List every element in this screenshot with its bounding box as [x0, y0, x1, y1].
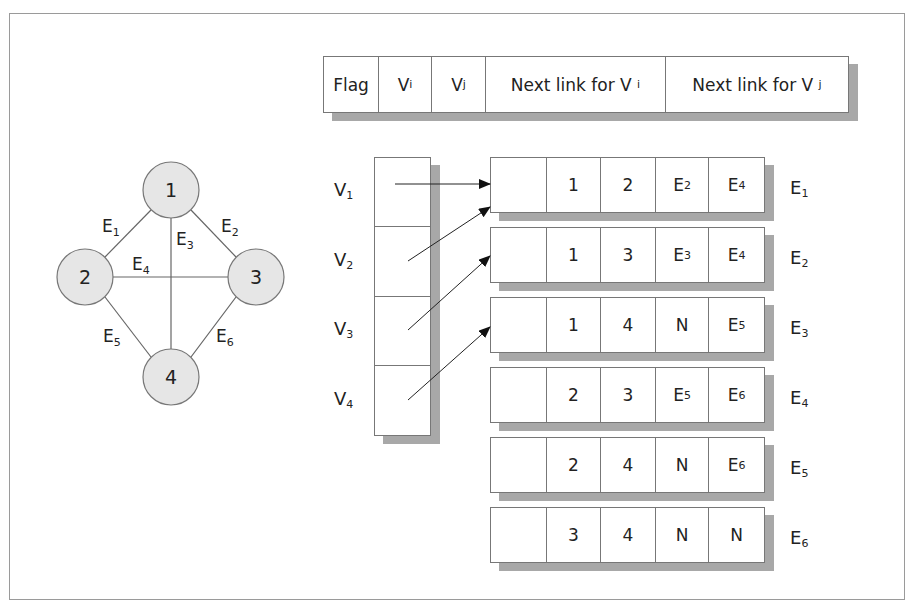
edge-e4-label: E4	[132, 254, 150, 277]
header-field-next-vj: Next link for V j	[666, 57, 848, 112]
header-field-vi: Vi	[379, 57, 432, 112]
edge-record-cell-vi: 1	[547, 298, 601, 352]
edge-record-cell-next-vi: N	[656, 438, 709, 492]
edge-record-cell-vj: 4	[601, 438, 656, 492]
edge-record-row: 34NN	[490, 507, 765, 563]
edge-record-cell-vi: 2	[547, 368, 601, 422]
edge-record-cell-vi: 1	[547, 228, 601, 282]
edge-record-cell-vj: 3	[601, 228, 656, 282]
vertex-label-v4: V4	[334, 388, 353, 411]
edge-record-cell-vj: 2	[601, 158, 656, 212]
edge-record-cell-flag	[491, 228, 547, 282]
edge-record-row: 24NE6	[490, 437, 765, 493]
edge-record-row: 12E2E4	[490, 157, 765, 213]
header-field-vj: Vj	[432, 57, 486, 112]
edge-record-label: E3	[790, 317, 808, 340]
node-2-label: 2	[79, 266, 91, 288]
edge-record-cell-flag	[491, 158, 547, 212]
vertex-cell-v3	[375, 297, 430, 366]
edge-record-cell-next-vi: N	[656, 298, 709, 352]
edge-record-label: E5	[790, 457, 808, 480]
edge-record-cell-next-vi: N	[656, 508, 709, 562]
edge-record-cell-next-vi: E2	[656, 158, 709, 212]
header-field-flag: Flag	[324, 57, 379, 112]
edge-record-row: 13E3E4	[490, 227, 765, 283]
edge-record-label: E6	[790, 527, 808, 550]
node-1-label: 1	[165, 179, 177, 201]
edge-e1-label: E1	[102, 216, 120, 239]
vertex-label-v3: V3	[334, 318, 353, 341]
edge-record-cell-flag	[491, 438, 547, 492]
edge-record-cell-next-vj: E4	[709, 158, 764, 212]
edge-e3-label: E3	[176, 229, 194, 252]
node-3-label: 3	[250, 266, 262, 288]
edge-record-row: 14NE5	[490, 297, 765, 353]
edge-record-cell-vi: 1	[547, 158, 601, 212]
edge-record-cell-vi: 3	[547, 508, 601, 562]
edge-record-cell-vj: 3	[601, 368, 656, 422]
edge-record-cell-next-vj: E6	[709, 438, 764, 492]
vertex-table	[374, 157, 431, 436]
header-field-next-vi: Next link for V i	[486, 57, 666, 112]
edge-record-cell-next-vi: E3	[656, 228, 709, 282]
edge-e6-label: E6	[216, 326, 234, 349]
header-record: Flag Vi Vj Next link for V i Next link f…	[323, 56, 849, 113]
vertex-cell-v4	[375, 366, 430, 435]
edge-e2-label: E2	[221, 216, 239, 239]
edge-record-cell-flag	[491, 298, 547, 352]
edge-record-label: E4	[790, 387, 808, 410]
vertex-cell-v1	[375, 158, 430, 227]
edge-record-row: 23E5E6	[490, 367, 765, 423]
edge-record-cell-next-vj: N	[709, 508, 764, 562]
edge-record-cell-flag	[491, 508, 547, 562]
edge-record-cell-vi: 2	[547, 438, 601, 492]
edge-record-label: E1	[790, 177, 808, 200]
edge-record-cell-next-vj: E5	[709, 298, 764, 352]
vertex-label-v1: V1	[334, 179, 353, 202]
edge-record-cell-next-vi: E5	[656, 368, 709, 422]
edge-record-cell-next-vj: E6	[709, 368, 764, 422]
vertex-cell-v2	[375, 227, 430, 296]
edge-record-cell-vj: 4	[601, 298, 656, 352]
edge-record-label: E2	[790, 247, 808, 270]
edge-record-cell-vj: 4	[601, 508, 656, 562]
edge-record-cell-flag	[491, 368, 547, 422]
edge-record-cell-next-vj: E4	[709, 228, 764, 282]
node-4-label: 4	[165, 366, 177, 388]
edge-e5-label: E5	[103, 326, 121, 349]
vertex-label-v2: V2	[334, 249, 353, 272]
